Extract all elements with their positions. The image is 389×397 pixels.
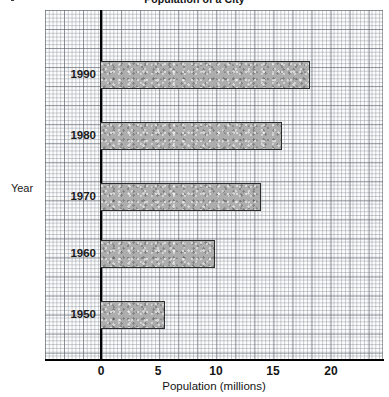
x-tick-label-5: 5 — [138, 364, 178, 378]
x-axis-title: Population (millions) — [45, 380, 383, 392]
bar-1980 — [100, 122, 282, 150]
bar-1970 — [100, 183, 261, 211]
x-tick-label-0: 0 — [81, 364, 121, 378]
bar-1960 — [100, 240, 215, 268]
chart-title: Population of a City — [0, 0, 389, 5]
y-tick-label-1990: 1990 — [48, 68, 96, 80]
x-axis-line — [45, 359, 384, 361]
bar-1990 — [100, 61, 310, 89]
x-tick-label-15: 15 — [253, 364, 293, 378]
x-tick-label-20: 20 — [311, 364, 351, 378]
y-axis-title: Year — [0, 182, 44, 194]
bar-1950 — [100, 301, 165, 329]
y-tick-label-1960: 1960 — [48, 247, 96, 259]
y-tick-label-1970: 1970 — [48, 190, 96, 202]
y-tick-label-1980: 1980 — [48, 129, 96, 141]
y-tick-label-1950: 1950 — [48, 308, 96, 320]
x-tick-label-10: 10 — [196, 364, 236, 378]
